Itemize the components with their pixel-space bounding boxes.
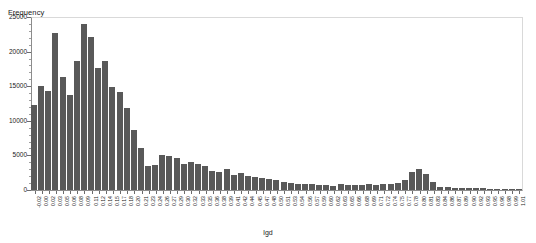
y-axis-minor-tick [29, 169, 31, 170]
y-axis-tick-mark [27, 86, 31, 87]
x-axis-tick-mark [427, 191, 428, 194]
histogram-bar [273, 180, 279, 190]
histogram-bar [31, 105, 37, 190]
x-axis-tick-label: 0.75 [400, 196, 405, 206]
x-axis-tick-label: 0.59 [322, 196, 327, 206]
y-axis-minor-tick [29, 31, 31, 32]
x-axis-title: lgd [0, 229, 536, 236]
x-axis-tick-label: 0.36 [215, 196, 220, 206]
x-axis-tick-label: 0.14 [108, 196, 113, 206]
x-axis-tick-mark [498, 191, 499, 194]
x-axis-tick-label: 0.02 [51, 196, 56, 206]
y-axis-tick-label: 25000 [9, 14, 27, 21]
histogram-bar [95, 68, 101, 190]
histogram-bar [288, 183, 294, 190]
histogram-bar [74, 61, 80, 190]
y-axis-tick-label: 10000 [9, 118, 27, 125]
x-axis-tick-label: 0.96 [500, 196, 505, 206]
x-axis-tick-mark [113, 191, 114, 194]
x-axis-tick-mark [291, 191, 292, 194]
x-axis-tick-label: 0.66 [357, 196, 362, 206]
histogram-bar [174, 158, 180, 190]
histogram-bar [181, 164, 187, 190]
x-axis-tick-mark [127, 191, 128, 194]
histogram-bar [352, 185, 358, 190]
x-axis-tick-mark [505, 191, 506, 194]
histogram-bar [131, 130, 137, 190]
histogram-bar [102, 61, 108, 190]
x-axis-tick-label: 0.63 [343, 196, 348, 206]
histogram-bar [338, 184, 344, 190]
x-axis-tick-label: 1.01 [521, 196, 526, 206]
histogram-bar [423, 174, 429, 190]
y-axis-tick-mark [27, 121, 31, 122]
histogram-bar [67, 95, 73, 190]
x-axis-tick-mark [134, 191, 135, 194]
x-axis-tick-label: 0.29 [179, 196, 184, 206]
x-axis-tick-label: 0.65 [350, 196, 355, 206]
histogram-bar [52, 33, 58, 190]
x-axis-tick-label: 0.23 [151, 196, 156, 206]
histogram-bar [359, 185, 365, 190]
x-axis-tick-mark [206, 191, 207, 194]
y-axis-minor-tick [29, 93, 31, 94]
x-axis-tick-mark [491, 191, 492, 194]
x-axis-tick-label: 0.54 [300, 196, 305, 206]
histogram-bar [487, 189, 493, 190]
histogram-bar [224, 169, 230, 190]
x-axis-tick-label: 0.48 [272, 196, 277, 206]
x-axis-tick-label: 0.11 [94, 196, 99, 206]
x-axis-tick-label: 0.47 [265, 196, 270, 206]
histogram-bar [188, 162, 194, 190]
y-axis-minor-tick [29, 24, 31, 25]
x-axis-tick-label: 0.39 [229, 196, 234, 206]
histogram-bar [466, 188, 472, 190]
x-axis-tick-label: 0.21 [144, 196, 149, 206]
histogram-bar [459, 188, 465, 190]
x-axis-tick-mark [405, 191, 406, 194]
x-axis-tick-mark [327, 191, 328, 194]
y-axis-tick-label: 5000 [13, 152, 27, 159]
x-axis-tick-mark [348, 191, 349, 194]
x-axis-tick-label: 0.72 [386, 196, 391, 206]
x-axis-tick-mark [455, 191, 456, 194]
histogram-bar [480, 188, 486, 190]
x-axis-tick-mark [412, 191, 413, 194]
x-axis-tick-mark [227, 191, 228, 194]
x-axis-tick-label: 0.90 [472, 196, 477, 206]
x-axis-tick-label: 0.83 [436, 196, 441, 206]
histogram-bar [316, 185, 322, 190]
y-axis-minor-tick [29, 59, 31, 60]
histogram-bar [302, 184, 308, 190]
y-axis-tick-mark [27, 52, 31, 53]
histogram-bar [216, 172, 222, 190]
x-axis-tick-mark [56, 191, 57, 194]
x-axis-tick-label: 0.95 [493, 196, 498, 206]
histogram-bar [445, 187, 451, 190]
x-axis-tick-mark [484, 191, 485, 194]
x-axis-tick-mark [120, 191, 121, 194]
histogram-bar [395, 183, 401, 190]
x-axis-tick-mark [84, 191, 85, 194]
x-axis-tick-mark [70, 191, 71, 194]
x-axis-tick-mark [434, 191, 435, 194]
histogram-bar [209, 171, 215, 190]
x-axis-tick-label: 0.32 [193, 196, 198, 206]
histogram-bar [345, 185, 351, 190]
x-axis-tick-label: 0.53 [293, 196, 298, 206]
x-axis-tick-mark [462, 191, 463, 194]
x-axis-tick-mark [341, 191, 342, 194]
histogram-bar [159, 155, 165, 190]
x-axis-tick-label: 0.03 [58, 196, 63, 206]
histogram-bar [259, 178, 265, 190]
y-axis-tick-labels: 0500010000150002000025000 [0, 0, 27, 243]
y-axis-minor-tick [29, 79, 31, 80]
x-axis-tick-mark [398, 191, 399, 194]
histogram-bar [380, 184, 386, 190]
histogram-bar [295, 184, 301, 190]
x-axis-tick-mark [284, 191, 285, 194]
y-axis-tick-label: 15000 [9, 83, 27, 90]
x-axis-tick-mark [256, 191, 257, 194]
x-axis-tick-mark [270, 191, 271, 194]
x-axis-tick-mark [149, 191, 150, 194]
